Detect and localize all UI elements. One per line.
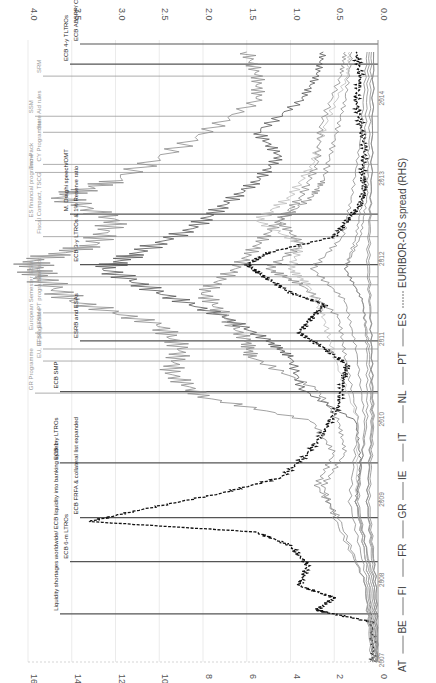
event-label: EU, EFSF, EFSM (36, 312, 42, 358)
rhs-tick: 0.5 (335, 8, 345, 21)
event-label: ECB 3-y LTROs & 1% Reserve ratio (73, 165, 79, 262)
legend-item: BE (397, 620, 408, 634)
event-label: ECB 6-m LTROs (63, 514, 69, 559)
legend-item: PT (397, 352, 408, 365)
legend-item: AT (397, 660, 408, 672)
event-label: ESM (28, 261, 34, 274)
event-label: Six-Pack (36, 257, 42, 282)
year-label: 2008 (378, 572, 385, 587)
event-label: SRM (36, 60, 42, 73)
rhs-tick: 3.0 (117, 8, 127, 21)
lhs-tick: 2 (335, 674, 345, 679)
data-series (14, 52, 379, 662)
legend-item: FI (397, 586, 408, 595)
legend-item: IE (397, 470, 408, 480)
event-annotations: Liquidity shortages worldwide/ ECB liqui… (28, 0, 79, 611)
legend-item: FR (397, 543, 408, 556)
lhs-tick: 16 (29, 674, 39, 683)
series-fr (344, 52, 378, 662)
year-label: 2009 (378, 492, 385, 507)
year-label: 2010 (378, 412, 385, 427)
year-label: 2013 (378, 171, 385, 186)
rhs-tick: 1.0 (292, 8, 302, 21)
rhs-tick: 1.5 (248, 8, 258, 21)
rhs-tick: 2.5 (160, 8, 170, 21)
lhs-tick: 14 (73, 674, 83, 683)
legend-item: NL (397, 390, 408, 403)
event-label: SSM (28, 100, 34, 113)
event-label: ECB 1-y LTROs (53, 417, 59, 460)
series-at (344, 52, 378, 662)
legend: ATBEFIFRGRIEITNLPTESEURIBOR-OIS spread (… (397, 158, 408, 672)
rhs-tick: 0.0 (379, 8, 389, 21)
lhs-tick: 6 (248, 674, 258, 679)
legend-item: EURIBOR-OIS spread (RHS) (397, 158, 408, 288)
event-label: Liquidity shortages worldwide/ ECB liqui… (53, 440, 59, 610)
event-label: Two-Pack (28, 142, 34, 169)
event-label: M. Draghi speech/OMT (63, 149, 69, 211)
rhs-tick: 4.0 (29, 8, 39, 21)
year-label: 2007 (378, 652, 385, 667)
lhs-tick: 12 (117, 674, 127, 683)
legend-item: IT (397, 433, 408, 442)
event-label: ECB SMP (53, 362, 59, 389)
lhs-tick: 4 (292, 674, 302, 679)
series-ie (198, 52, 374, 662)
event-label: GR Programme (28, 347, 34, 390)
event-label: ECB FRFA & collateral list expanded (73, 417, 79, 514)
lhs-tick: 0 (379, 674, 389, 679)
event-label: ESRB and ESAs (73, 293, 79, 338)
series-euribor-ois-spread-rhs- (90, 52, 377, 662)
lhs-tick: 8 (204, 674, 214, 679)
event-label: ECB ABSPP/ CBPP3 (73, 0, 79, 41)
axes: 00.020.541.061.582.0102.5123.0143.5164.0… (28, 8, 389, 683)
event-label: Fiscal Compact, TSCG (36, 172, 42, 234)
rhs-tick: 2.0 (204, 8, 214, 21)
series-es (256, 52, 376, 662)
legend-item: ES (397, 313, 408, 327)
event-label: State Aid rules (36, 91, 42, 130)
sovereign-spreads-chart: 00.020.541.061.582.0102.5123.0143.5164.0… (0, 0, 436, 683)
year-label: 2011 (378, 332, 385, 346)
event-label: European Semester (28, 277, 34, 330)
lhs-tick: 10 (160, 674, 170, 683)
legend-item: GR (397, 503, 408, 518)
year-label: 2014 (378, 91, 385, 106)
year-label: 2012 (378, 251, 385, 266)
event-label: ECB 4-y TLTROs (63, 15, 69, 61)
series-gr (14, 52, 373, 662)
